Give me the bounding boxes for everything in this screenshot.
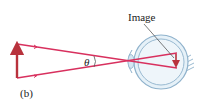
eyeball-inner bbox=[138, 39, 184, 85]
eye-angle-diagram: θ Image (b) bbox=[0, 0, 203, 104]
diagram-canvas: θ Image (b) bbox=[0, 0, 203, 104]
angle-label: θ bbox=[84, 56, 90, 68]
image-label: Image bbox=[128, 11, 156, 23]
panel-label: (b) bbox=[20, 87, 33, 100]
